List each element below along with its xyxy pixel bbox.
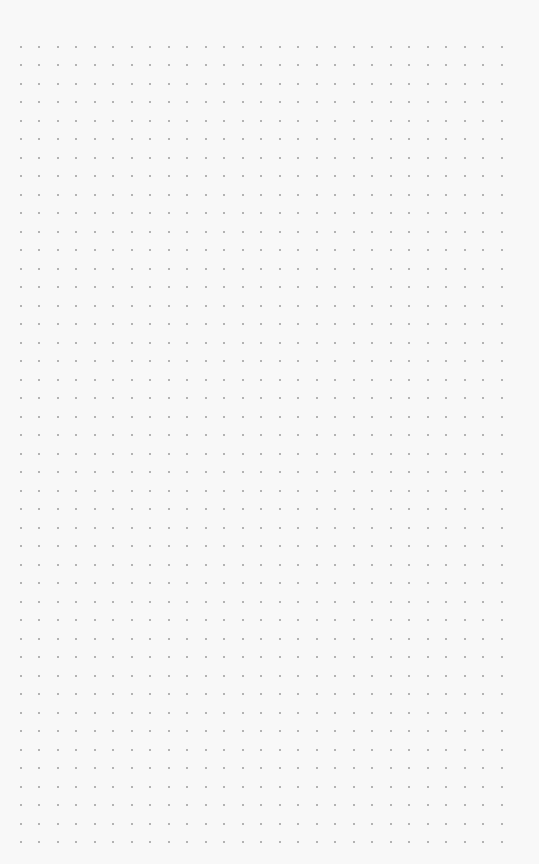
grid-dot: [316, 231, 318, 233]
grid-dot: [482, 564, 484, 566]
grid-dot: [297, 564, 299, 566]
grid-dot: [297, 231, 299, 233]
grid-dot: [408, 360, 410, 362]
grid-dot: [149, 212, 151, 214]
grid-dot: [445, 231, 447, 233]
grid-dot: [297, 767, 299, 769]
grid-dot: [75, 712, 77, 714]
grid-dot: [223, 490, 225, 492]
grid-dot: [242, 64, 244, 66]
grid-dot: [205, 434, 207, 436]
grid-dot: [501, 249, 503, 251]
grid-dot: [334, 120, 336, 122]
grid-dot: [223, 157, 225, 159]
grid-dot: [112, 545, 114, 547]
grid-dot: [260, 582, 262, 584]
grid-dot: [297, 693, 299, 695]
grid-dot: [316, 268, 318, 270]
grid-dot: [427, 767, 429, 769]
grid-dot: [223, 471, 225, 473]
grid-dot: [242, 767, 244, 769]
grid-dot: [223, 46, 225, 48]
grid-dot: [445, 693, 447, 695]
grid-dot: [94, 249, 96, 251]
grid-dot: [297, 212, 299, 214]
grid-dot: [131, 360, 133, 362]
grid-dot: [482, 268, 484, 270]
grid-dot: [205, 120, 207, 122]
grid-dot: [408, 527, 410, 529]
grid-dot: [279, 212, 281, 214]
grid-dot: [316, 490, 318, 492]
grid-dot: [482, 249, 484, 251]
grid-dot: [260, 194, 262, 196]
grid-dot: [371, 675, 373, 677]
grid-dot: [38, 767, 40, 769]
grid-dot: [371, 416, 373, 418]
grid-dot: [168, 268, 170, 270]
grid-dot: [75, 360, 77, 362]
grid-dot: [353, 804, 355, 806]
grid-dot: [186, 619, 188, 621]
grid-dot: [38, 379, 40, 381]
grid-dot: [112, 453, 114, 455]
grid-dot: [408, 804, 410, 806]
grid-dot: [131, 416, 133, 418]
grid-dot: [38, 601, 40, 603]
grid-dot: [149, 545, 151, 547]
grid-dot: [501, 841, 503, 843]
grid-dot: [334, 656, 336, 658]
grid-dot: [353, 397, 355, 399]
grid-dot: [242, 305, 244, 307]
grid-dot: [408, 268, 410, 270]
grid-dot: [223, 120, 225, 122]
grid-dot: [149, 841, 151, 843]
grid-dot: [112, 120, 114, 122]
grid-dot: [223, 638, 225, 640]
grid-dot: [445, 64, 447, 66]
grid-dot: [205, 730, 207, 732]
grid-dot: [279, 323, 281, 325]
grid-dot: [20, 175, 22, 177]
grid-dot: [20, 638, 22, 640]
grid-dot: [75, 64, 77, 66]
grid-dot: [38, 786, 40, 788]
grid-dot: [408, 582, 410, 584]
grid-dot: [94, 360, 96, 362]
grid-dot: [242, 268, 244, 270]
grid-dot: [112, 397, 114, 399]
grid-dot: [501, 564, 503, 566]
grid-dot: [57, 749, 59, 751]
grid-dot: [482, 212, 484, 214]
grid-dot: [353, 823, 355, 825]
grid-dot: [501, 693, 503, 695]
grid-dot: [316, 64, 318, 66]
grid-dot: [427, 120, 429, 122]
grid-dot: [186, 416, 188, 418]
grid-dot: [334, 730, 336, 732]
grid-dot: [112, 342, 114, 344]
grid-dot: [20, 342, 22, 344]
grid-dot: [94, 471, 96, 473]
grid-dot: [427, 323, 429, 325]
grid-dot: [94, 508, 96, 510]
grid-dot: [223, 675, 225, 677]
grid-dot: [186, 101, 188, 103]
grid-dot: [57, 712, 59, 714]
grid-dot: [223, 64, 225, 66]
grid-dot: [186, 730, 188, 732]
grid-dot: [279, 268, 281, 270]
grid-dot: [260, 545, 262, 547]
grid-dot: [168, 656, 170, 658]
grid-dot: [501, 231, 503, 233]
grid-dot: [57, 804, 59, 806]
grid-dot: [297, 379, 299, 381]
grid-dot: [334, 545, 336, 547]
grid-dot: [205, 601, 207, 603]
grid-dot: [279, 841, 281, 843]
grid-dot: [427, 101, 429, 103]
grid-dot: [408, 120, 410, 122]
grid-dot: [427, 527, 429, 529]
grid-dot: [205, 46, 207, 48]
grid-dot: [75, 212, 77, 214]
